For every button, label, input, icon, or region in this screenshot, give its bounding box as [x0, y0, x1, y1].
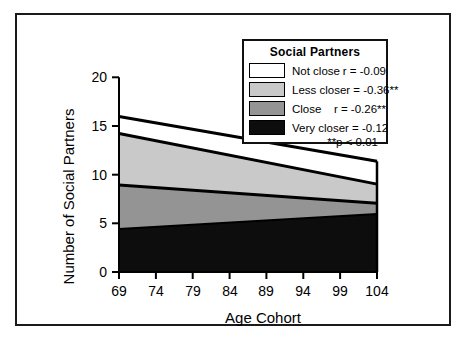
- y-tick-label-0: 0: [81, 264, 107, 280]
- y-tick-label-20: 20: [81, 69, 107, 85]
- legend-r-very-close: r = -0.12: [345, 122, 388, 134]
- x-tick-label-94: 94: [295, 283, 311, 299]
- legend-label-less-close: Less close: [292, 84, 346, 96]
- legend-title: Social Partners: [244, 45, 386, 59]
- legend-label-very-close: Very close: [292, 122, 345, 134]
- figure-border: 20 15 10 5 0 69 74 79 84 89 94 99 104 Nu…: [15, 13, 451, 326]
- legend-label-not-close: Not close: [292, 65, 343, 77]
- x-tick-label-99: 99: [332, 283, 348, 299]
- legend-r-not-close: r = -0.09: [343, 65, 386, 77]
- legend-item-not-close: Not close r = -0.09: [244, 61, 386, 80]
- legend-swatch-very-close: [249, 120, 285, 135]
- legend-label-close: Close: [292, 103, 334, 115]
- x-tick-label-84: 84: [222, 283, 238, 299]
- y-tick-label-15: 15: [81, 118, 107, 134]
- legend-item-close: Close r = -0.26**: [244, 99, 386, 118]
- legend-swatch-less-close: [249, 82, 285, 97]
- figure-container: 20 15 10 5 0 69 74 79 84 89 94 99 104 Nu…: [0, 0, 467, 345]
- x-tick-label-104: 104: [365, 283, 388, 299]
- legend-r-close: r = -0.26**: [334, 103, 386, 115]
- y-tick-label-10: 10: [81, 167, 107, 183]
- y-axis-title: Number of Social Partners: [60, 102, 77, 292]
- legend-item-less-close: Less close r = -0.36**: [244, 80, 386, 99]
- x-tick-label-89: 89: [258, 283, 274, 299]
- x-tick-label-69: 69: [111, 283, 127, 299]
- x-tick-label-79: 79: [185, 283, 201, 299]
- legend-swatch-close: [249, 101, 285, 116]
- legend-significance-note: **p < 0.01: [244, 136, 386, 148]
- legend-r-less-close: r = -0.36**: [346, 84, 398, 96]
- x-tick-label-74: 74: [148, 283, 164, 299]
- legend-swatch-not-close: [249, 63, 285, 78]
- legend: Social Partners Not close r = -0.09 Less…: [242, 39, 388, 144]
- x-axis-title: Age Cohort: [134, 309, 392, 326]
- y-tick-label-5: 5: [81, 215, 107, 231]
- legend-item-very-close: Very close r = -0.12: [244, 118, 386, 137]
